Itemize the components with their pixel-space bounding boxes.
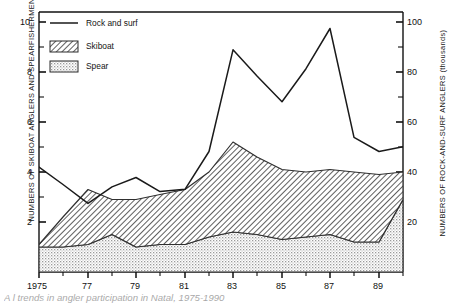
series-area-skiboat xyxy=(39,142,403,247)
legend-label-spear: Spear xyxy=(86,61,108,71)
legend-swatch-skiboat xyxy=(50,41,78,52)
bottom-tick-label-1975: 1975 xyxy=(27,281,47,291)
right-tick-label-40: 40 xyxy=(407,167,417,177)
figure-caption: A l trends in angler participation in Na… xyxy=(4,292,456,303)
bottom-tick-label-77: 77 xyxy=(82,281,92,291)
bottom-axis-ticks xyxy=(39,272,403,278)
legend-swatch-spear xyxy=(50,61,78,72)
bottom-tick-label-83: 83 xyxy=(227,281,237,291)
left-axis-title: NUMBERS OF SKIBOAT ANGLERS AND SPEARFISH… xyxy=(27,52,36,222)
bottom-tick-label-87: 87 xyxy=(324,281,334,291)
right-tick-label-60: 60 xyxy=(407,117,417,127)
bottom-tick-label-89: 89 xyxy=(373,281,383,291)
right-axis-title: NUMBERS OF ROCK-AND-SURF ANGLERS (thousa… xyxy=(438,67,447,237)
right-tick-label-20: 20 xyxy=(407,217,417,227)
figure-angler-participation: Rock and surf Skiboat Spear 10 8 6 4 2 1… xyxy=(0,0,459,303)
left-axis-ticks xyxy=(39,22,46,247)
legend-label-skiboat: Skiboat xyxy=(86,41,114,51)
chart-canvas xyxy=(0,0,459,303)
right-tick-label-80: 80 xyxy=(407,67,417,77)
right-tick-label-100: 100 xyxy=(407,17,422,27)
bottom-tick-label-85: 85 xyxy=(276,281,286,291)
bottom-tick-label-81: 81 xyxy=(179,281,189,291)
bottom-tick-label-79: 79 xyxy=(130,281,140,291)
legend xyxy=(50,23,78,72)
legend-label-rock-and-surf: Rock and surf xyxy=(86,18,138,28)
